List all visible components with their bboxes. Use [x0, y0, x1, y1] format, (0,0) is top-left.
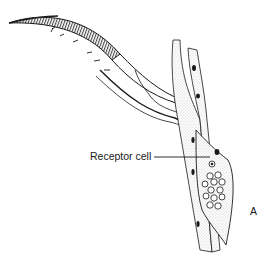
- seta-hair: [9, 16, 182, 103]
- panel-label: A: [250, 205, 257, 217]
- sensillum-illustration: [0, 0, 271, 255]
- receptor-cell-label: Receptor cell: [90, 150, 151, 162]
